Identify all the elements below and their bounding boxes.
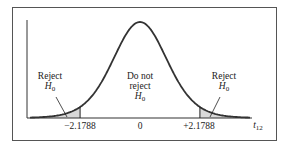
left-reject-label: Reject H0 xyxy=(30,71,70,94)
right-reject-text: Reject xyxy=(204,71,244,81)
left-reject-text: Reject xyxy=(30,71,70,81)
center-h-symbol: H xyxy=(135,91,142,101)
left-h-symbol: H xyxy=(45,81,52,91)
tick-label-left: −2.1788 xyxy=(57,121,103,131)
tick-label-right: +2.1788 xyxy=(176,121,222,131)
tick-label-center: 0 xyxy=(130,121,150,131)
right-reject-label: Reject H0 xyxy=(204,71,244,94)
axis-label: t12 xyxy=(248,120,268,133)
center-h-subscript: 0 xyxy=(142,95,146,103)
right-h-symbol: H xyxy=(219,81,226,91)
left-h-subscript: 0 xyxy=(52,85,56,93)
right-h-subscript: 0 xyxy=(226,85,230,93)
axis-subscript: 12 xyxy=(256,124,263,132)
center-text-2: reject xyxy=(118,81,162,91)
center-label: Do not reject H0 xyxy=(118,71,162,104)
center-text-1: Do not xyxy=(118,71,162,81)
